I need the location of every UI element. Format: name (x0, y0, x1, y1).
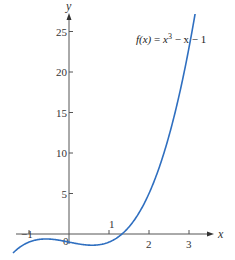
x-tick-label: 2 (146, 238, 152, 250)
y-tick-label: 15 (56, 107, 68, 119)
y-tick-label: 10 (56, 147, 68, 159)
function-plot: x y −10123 510152025 f(x) = x3 − x − 1 (0, 0, 235, 260)
x-tick-label: −1 (21, 228, 33, 240)
x-tick-label: 3 (186, 238, 192, 250)
y-ticks: 510152025 (56, 26, 73, 200)
function-label: f(x) = x3 − x − 1 (136, 32, 206, 46)
y-tick-label: 20 (56, 66, 68, 78)
y-axis-label: y (65, 0, 72, 13)
y-tick-label: 25 (56, 26, 68, 38)
x-axis-arrow-icon (207, 232, 214, 237)
x-tick-label: 1 (109, 218, 115, 230)
y-tick-label: 5 (62, 188, 68, 200)
x-axis-label: x (217, 227, 224, 241)
y-axis-arrow-icon (67, 13, 72, 20)
